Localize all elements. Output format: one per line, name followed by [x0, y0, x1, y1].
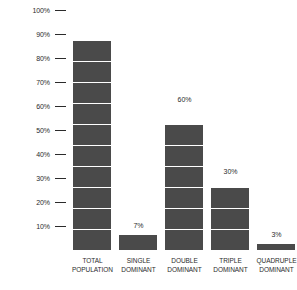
bar-group: 3% QUADRUPLE DOMINANT	[254, 0, 297, 290]
bar-value-label: 30%	[208, 168, 253, 175]
bar-single-dominant	[119, 235, 157, 250]
y-axis-tick-dash	[55, 34, 66, 35]
bar-value-label: 60%	[162, 96, 207, 103]
y-axis-tick-dash	[55, 82, 66, 83]
x-axis-category-label: QUADRUPLE DOMINANT	[248, 256, 297, 275]
y-axis: 100% 90% 80% 70% 60% 50% 40% 30%	[0, 0, 70, 290]
bar-double-dominant	[165, 124, 203, 250]
category-line-1: QUADRUPLE	[248, 256, 297, 265]
y-axis-tick-dash	[55, 130, 66, 131]
y-axis-tick-dash	[55, 202, 66, 203]
y-axis-tick-label: 30%	[36, 175, 50, 182]
y-axis-tick-dash	[55, 226, 66, 227]
y-axis-tick-label: 10%	[36, 223, 50, 230]
y-axis-tick-label: 100%	[32, 7, 50, 14]
y-axis-tick-label: 60%	[36, 103, 50, 110]
y-axis-tick-dash	[55, 178, 66, 179]
y-axis-tick-label: 80%	[36, 55, 50, 62]
bar-chart: 100% 90% 80% 70% 60% 50% 40% 30%	[0, 0, 297, 290]
y-axis-tick-dash	[55, 58, 66, 59]
y-axis-tick-dash	[55, 154, 66, 155]
y-axis-tick-label: 40%	[36, 151, 50, 158]
bar-triple-dominant	[211, 187, 249, 250]
y-axis-tick-label: 50%	[36, 127, 50, 134]
bar-group: 30% TRIPLE DOMINANT	[208, 0, 253, 290]
bar-group: 60% DOUBLE DOMINANT	[162, 0, 207, 290]
bar-value-label: 7%	[116, 222, 161, 229]
category-line-2: DOMINANT	[248, 265, 297, 274]
bar-value-label: 3%	[254, 231, 297, 238]
y-axis-tick-label: 20%	[36, 199, 50, 206]
bar-total-population	[73, 40, 111, 250]
bar-group: TOTAL POPULATION	[70, 0, 115, 290]
y-axis-tick-dash	[55, 10, 66, 11]
y-axis-tick-dash	[55, 106, 66, 107]
bar-quadruple-dominant	[257, 244, 295, 250]
plot-area: TOTAL POPULATION 7% SINGLE DOMINANT 60% …	[70, 0, 297, 290]
y-axis-tick-label: 70%	[36, 79, 50, 86]
y-axis-tick-label: 90%	[36, 31, 50, 38]
bar-group: 7% SINGLE DOMINANT	[116, 0, 161, 290]
